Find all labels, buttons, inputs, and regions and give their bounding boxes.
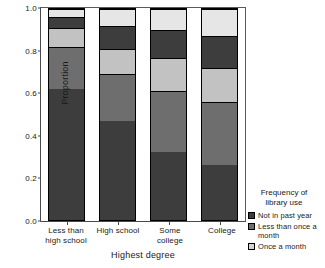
bar-segment-not-in-past-year[interactable] <box>151 152 186 220</box>
x-tick-label-line1: Some <box>144 226 196 236</box>
legend-item-label: Less than once a month <box>258 222 325 240</box>
bar-segment-once-a-month[interactable] <box>202 68 237 102</box>
legend-item-label: Once a month <box>258 242 306 251</box>
x-tick-label-line1: Less than <box>40 226 92 236</box>
legend-item-once-a-month[interactable]: Once a month <box>248 242 325 251</box>
x-tick-label-college: College <box>196 226 248 236</box>
y-tick-label: 0.4 <box>25 131 41 140</box>
x-tick-label-line2: high school <box>40 236 92 246</box>
plot-area <box>41 8 245 221</box>
legend-title: Frequency of library use <box>248 188 320 208</box>
bar-segment-less-than-once-a-month[interactable] <box>100 74 135 120</box>
stacked-bar[interactable] <box>150 8 187 221</box>
y-axis-title: Proportion <box>60 33 70 133</box>
y-tick-label: 0.0 <box>25 217 41 226</box>
bar-segment-not-in-past-year[interactable] <box>100 121 135 220</box>
bar-segment-top[interactable] <box>49 9 84 17</box>
bar-segment-top[interactable] <box>202 9 237 36</box>
legend-swatch-icon <box>248 223 255 230</box>
x-tick-label-some-college: Some college <box>144 226 196 246</box>
x-tick-label-high-school: High school <box>92 226 144 236</box>
bar-segment-more-than-once-a-month[interactable] <box>151 30 186 57</box>
bar-segment-once-a-month[interactable] <box>100 49 135 74</box>
bar-segment-top[interactable] <box>151 9 186 30</box>
y-tick-label: 0.2 <box>25 174 41 183</box>
legend-item-label: Not in past year <box>258 211 312 220</box>
x-tick-label-line1: High school <box>92 226 144 236</box>
bar-segment-less-than-once-a-month[interactable] <box>202 102 237 165</box>
x-tick-label-line1: College <box>196 226 248 236</box>
y-tick-label: 1.0 <box>25 4 41 13</box>
stacked-bar[interactable] <box>201 8 238 221</box>
legend-item-less-than-once-a-month[interactable]: Less than once a month <box>248 222 325 240</box>
x-axis-title: Highest degree <box>40 250 246 260</box>
legend-swatch-icon <box>248 212 255 219</box>
bar-segment-more-than-once-a-month[interactable] <box>202 36 237 68</box>
legend-swatch-icon <box>248 243 255 250</box>
bar-group-some-college <box>150 8 187 221</box>
bar-segment-less-than-once-a-month[interactable] <box>151 91 186 152</box>
legend: Frequency of library use Not in past yea… <box>248 188 325 253</box>
legend-title-line1: Frequency of <box>248 188 320 198</box>
bar-group-high-school <box>99 8 136 221</box>
plot-frame: 1.0 0.8 0.6 0.4 0.2 0.0 <box>40 7 246 222</box>
x-axis-line <box>41 221 245 222</box>
bar-segment-more-than-once-a-month[interactable] <box>100 26 135 49</box>
bar-group-college <box>201 8 238 221</box>
x-tick-label-line2: college <box>144 236 196 246</box>
y-tick-label: 0.6 <box>25 89 41 98</box>
bar-segment-top[interactable] <box>100 9 135 26</box>
bar-segment-not-in-past-year[interactable] <box>202 165 237 220</box>
chart-root: 1.0 0.8 0.6 0.4 0.2 0.0 <box>0 0 325 268</box>
legend-item-not-in-past-year[interactable]: Not in past year <box>248 211 325 220</box>
bar-segment-once-a-month[interactable] <box>151 58 186 92</box>
bar-segment-more-than-once-a-month[interactable] <box>49 17 84 28</box>
x-tick-label-less-than-high-school: Less than high school <box>40 226 92 246</box>
y-tick-label: 0.8 <box>25 46 41 55</box>
legend-title-line2: library use <box>248 198 320 208</box>
stacked-bar[interactable] <box>99 8 136 221</box>
